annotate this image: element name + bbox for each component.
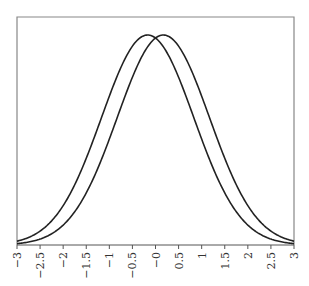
curves <box>17 35 294 244</box>
x-tick-label: −1.5 <box>80 252 93 279</box>
x-tick-label: −2.5 <box>34 252 47 279</box>
x-axis-tick-labels: −3−2.5−2−1.5−1−0.5−00.511.522.53 <box>11 252 301 279</box>
x-tick-label: 2.5 <box>265 252 278 270</box>
x-tick-label: −1 <box>103 252 116 268</box>
x-tick-label: 1 <box>196 252 209 259</box>
x-tick-label: 1.5 <box>219 252 232 270</box>
x-axis-ticks <box>17 245 294 249</box>
x-tick-label: 0.5 <box>173 252 186 270</box>
plot-frame <box>17 17 294 245</box>
chart: −3−2.5−2−1.5−1−0.5−00.511.522.53 <box>0 0 309 286</box>
x-tick-label: −0 <box>150 252 163 268</box>
x-tick-label: 3 <box>288 252 301 259</box>
x-tick-label: −3 <box>11 252 24 268</box>
x-tick-label: −2 <box>57 252 70 268</box>
x-tick-label: 2 <box>242 252 255 259</box>
x-tick-label: −0.5 <box>126 252 139 279</box>
